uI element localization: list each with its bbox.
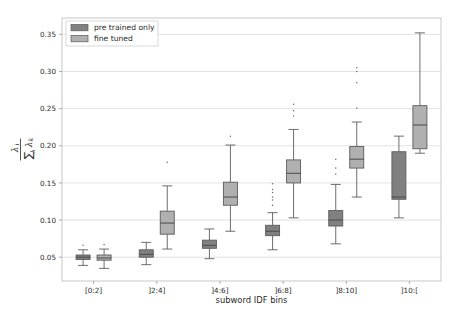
box-iqr[interactable] bbox=[350, 147, 364, 169]
outlier-0 bbox=[230, 135, 232, 137]
ytick-label-0.15: 0.15 bbox=[40, 179, 56, 188]
box-iqr[interactable] bbox=[202, 240, 216, 248]
box-iqr[interactable] bbox=[223, 182, 237, 205]
outlier-0 bbox=[335, 173, 337, 175]
outlier-2 bbox=[293, 103, 295, 105]
outlier-1 bbox=[335, 167, 337, 169]
x-axis: [0:2]]2:4]]4:6]]6:8]]8:10]]10:[ bbox=[85, 281, 418, 295]
xtick-label-0: [0:2] bbox=[85, 286, 102, 295]
ytick-label-0.30: 0.30 bbox=[40, 67, 56, 76]
outlier-1 bbox=[293, 110, 295, 112]
outlier-5 bbox=[272, 183, 274, 185]
ytick-label-0.05: 0.05 bbox=[40, 253, 56, 262]
boxplot-figure: 0.050.100.150.200.250.300.35[0:2]]2:4]]4… bbox=[0, 0, 450, 323]
ytick-label-0.20: 0.20 bbox=[40, 141, 56, 150]
box-iqr[interactable] bbox=[392, 152, 406, 200]
box-iqr[interactable] bbox=[287, 160, 301, 183]
y-axis-denominator-sub: k bbox=[27, 137, 34, 141]
outlier-0 bbox=[272, 204, 274, 206]
legend: pre trained onlyfine tuned bbox=[66, 21, 158, 46]
ytick-label-0.10: 0.10 bbox=[40, 216, 56, 225]
xtick-label-1: ]2:4] bbox=[148, 286, 165, 295]
outlier-0 bbox=[103, 244, 105, 246]
y-axis-title: λi∑kλk bbox=[10, 137, 36, 160]
outlier-3 bbox=[272, 192, 274, 194]
outlier-0 bbox=[167, 161, 169, 163]
outlier-1 bbox=[356, 82, 358, 84]
box-iqr[interactable] bbox=[413, 106, 427, 149]
outlier-2 bbox=[272, 196, 274, 198]
ytick-label-0.35: 0.35 bbox=[40, 30, 56, 39]
x-axis-title: subword IDF bins bbox=[216, 295, 288, 305]
box-iqr[interactable] bbox=[329, 210, 343, 226]
y-axis-sum-sub: k bbox=[29, 149, 36, 153]
legend-label-0: pre trained only bbox=[94, 23, 155, 32]
outlier-0 bbox=[82, 245, 84, 247]
y-axis-numerator-sub: i bbox=[13, 143, 20, 145]
chart-canvas: 0.050.100.150.200.250.300.35[0:2]]2:4]]4… bbox=[0, 0, 450, 323]
ytick-label-0.25: 0.25 bbox=[40, 104, 56, 113]
box-iqr[interactable] bbox=[266, 225, 280, 235]
outlier-4 bbox=[272, 189, 274, 191]
legend-swatch-0 bbox=[71, 24, 88, 30]
y-axis-numerator: λ bbox=[10, 147, 20, 154]
outlier-0 bbox=[293, 115, 295, 117]
outlier-2 bbox=[335, 158, 337, 160]
y-axis-denominator: λ bbox=[24, 142, 34, 149]
xtick-label-5: ]10:[ bbox=[401, 286, 418, 295]
outlier-1 bbox=[272, 199, 274, 201]
legend-swatch-1 bbox=[71, 35, 88, 41]
plot-area bbox=[62, 18, 441, 281]
xtick-label-4: ]8:10] bbox=[335, 286, 357, 295]
outlier-3 bbox=[356, 67, 358, 69]
xtick-label-2: ]4:6] bbox=[211, 286, 228, 295]
outlier-2 bbox=[356, 71, 358, 73]
outlier-0 bbox=[356, 107, 358, 109]
legend-label-1: fine tuned bbox=[94, 34, 133, 43]
xtick-label-3: ]6:8] bbox=[274, 286, 291, 295]
box-iqr[interactable] bbox=[139, 250, 153, 257]
